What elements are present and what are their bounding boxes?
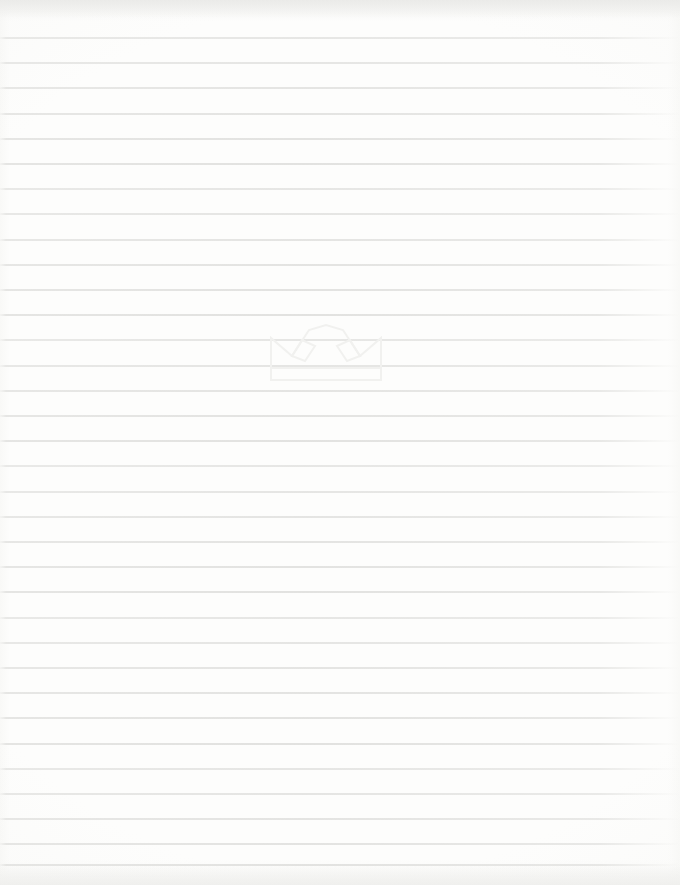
ruled-line bbox=[0, 188, 680, 190]
ruled-line bbox=[0, 717, 680, 719]
ruled-line bbox=[0, 113, 680, 115]
page-bottom-edge-shadow bbox=[0, 865, 680, 885]
ruled-line bbox=[0, 239, 680, 241]
ruled-line bbox=[0, 516, 680, 518]
crown-watermark bbox=[266, 318, 386, 386]
ruled-line bbox=[0, 843, 680, 845]
paper-texture bbox=[0, 0, 680, 885]
ruled-line bbox=[0, 138, 680, 140]
ruled-line bbox=[0, 768, 680, 770]
ruled-line bbox=[0, 163, 680, 165]
ruled-line bbox=[0, 465, 680, 467]
ruled-line bbox=[0, 864, 680, 866]
ruled-line bbox=[0, 213, 680, 215]
ruled-line bbox=[0, 642, 680, 644]
ruled-line bbox=[0, 440, 680, 442]
ruled-line bbox=[0, 87, 680, 89]
ruled-line bbox=[0, 491, 680, 493]
ruled-line bbox=[0, 818, 680, 820]
ruled-line bbox=[0, 692, 680, 694]
ruled-line bbox=[0, 37, 680, 39]
scanned-page bbox=[0, 0, 680, 885]
ruled-line bbox=[0, 62, 680, 64]
ruled-line bbox=[0, 365, 680, 367]
ruled-lines bbox=[0, 0, 680, 885]
ruled-line bbox=[0, 541, 680, 543]
ruled-line bbox=[0, 264, 680, 266]
ruled-line bbox=[0, 743, 680, 745]
ruled-line bbox=[0, 793, 680, 795]
ruled-line bbox=[0, 339, 680, 341]
ruled-line bbox=[0, 566, 680, 568]
ruled-line bbox=[0, 591, 680, 593]
ruled-line bbox=[0, 314, 680, 316]
ruled-line bbox=[0, 289, 680, 291]
ruled-line bbox=[0, 667, 680, 669]
page-top-edge-shadow bbox=[0, 0, 680, 18]
ruled-line bbox=[0, 617, 680, 619]
ruled-line bbox=[0, 415, 680, 417]
ruled-line bbox=[0, 390, 680, 392]
